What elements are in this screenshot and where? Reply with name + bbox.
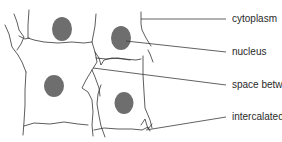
label-nucleus: nucleus <box>232 46 266 58</box>
fibre-outline-left-strand-2 <box>14 14 24 50</box>
fibre-outline-central <box>82 14 97 136</box>
label-space-between-fibres: space between fibres <box>232 79 282 91</box>
fibre-outline-upper-right <box>141 12 151 46</box>
nucleus-lower-right <box>115 92 134 114</box>
leader-line-intercalated-disc <box>146 117 226 130</box>
label-intercalated-disc: intercalated disc <box>232 111 282 123</box>
fibre-outline-left-strand <box>5 25 26 72</box>
fibre-outline-upper-right-2 <box>148 50 153 62</box>
nucleus-upper-right <box>111 26 131 50</box>
cardiac-muscle-diagram: cytoplasm nucleus space between fibres i… <box>0 0 282 142</box>
nucleus-upper-left <box>52 17 72 41</box>
nucleus-lower-left <box>44 75 64 97</box>
nuclei <box>44 17 134 114</box>
leader-line-space-between-fibres <box>93 68 226 85</box>
fibre-outline-upper-right-top <box>96 58 130 60</box>
label-cytoplasm: cytoplasm <box>232 13 277 25</box>
leader-line-nucleus <box>126 41 226 52</box>
fibre-outline-lower-left-bottom <box>24 122 88 126</box>
fibre-outline-right-edge <box>143 56 152 128</box>
